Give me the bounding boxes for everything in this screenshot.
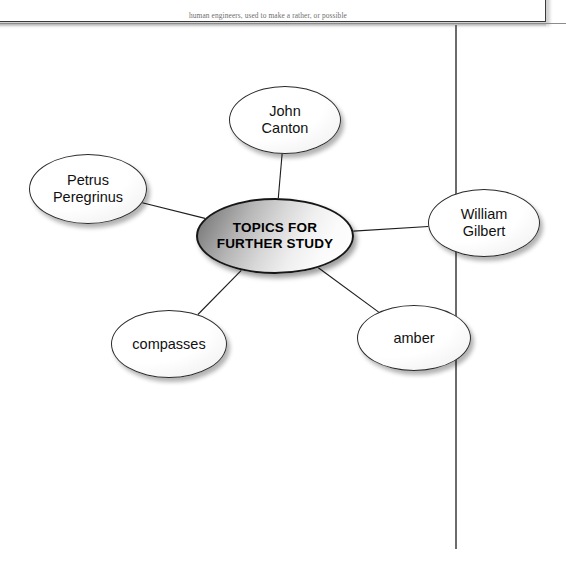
connector-topics-for-further-study-to-amber [318, 268, 378, 312]
node-amber[interactable]: amber [357, 305, 471, 371]
node-amber-label: amber [393, 330, 434, 347]
node-compasses-label: compasses [132, 336, 205, 353]
connector-topics-for-further-study-to-petrus-peregrinus [142, 203, 205, 219]
concept-map: TOPICS FOR FURTHER STUDY John Canton Pet… [0, 0, 566, 561]
node-william-gilbert-label: William Gilbert [461, 206, 508, 240]
central-node-topics-for-further-study[interactable]: TOPICS FOR FURTHER STUDY [196, 198, 354, 274]
node-william-gilbert[interactable]: William Gilbert [428, 189, 540, 257]
node-compasses[interactable]: compasses [111, 310, 227, 378]
central-node-label: TOPICS FOR FURTHER STUDY [217, 220, 334, 253]
node-petrus-peregrinus[interactable]: Petrus Peregrinus [29, 154, 147, 224]
connector-topics-for-further-study-to-john-canton [278, 154, 282, 198]
textbook-page: human engineers, used to make a rather, … [0, 0, 566, 561]
connector-topics-for-further-study-to-compasses [198, 270, 241, 314]
node-john-canton[interactable]: John Canton [229, 86, 341, 154]
node-petrus-peregrinus-label: Petrus Peregrinus [53, 172, 123, 206]
node-john-canton-label: John Canton [262, 103, 309, 137]
connector-topics-for-further-study-to-william-gilbert [353, 227, 428, 232]
connector-lines [0, 0, 566, 561]
